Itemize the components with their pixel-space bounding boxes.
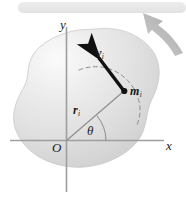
radius-symbol: r [73, 103, 78, 117]
radius-vector-label: ri [73, 104, 80, 117]
angle-label: θ [87, 124, 93, 137]
radius-subscript: i [78, 109, 80, 118]
mass-element-label: mi [130, 85, 142, 98]
velocity-symbol: v [96, 46, 101, 60]
x-axis-label: x [166, 139, 172, 152]
y-axis-label: y [60, 18, 66, 31]
figure-canvas [0, 0, 186, 199]
velocity-subscript: i [102, 52, 104, 61]
top-banner [18, 2, 186, 13]
origin-label: O [52, 141, 61, 154]
velocity-vector-label: vi [96, 47, 104, 60]
mass-symbol: m [130, 84, 139, 98]
physics-figure-rotating-body: y x O vi mi ri θ [0, 0, 186, 199]
mass-element-dot [121, 88, 127, 94]
mass-subscript: i [140, 90, 142, 99]
